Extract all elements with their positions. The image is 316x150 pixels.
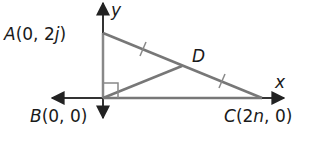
y-axis-label: y bbox=[110, 0, 122, 20]
point-c-name: C bbox=[224, 106, 236, 126]
point-b-label: B(0, 0) bbox=[30, 106, 87, 126]
point-b-name: B bbox=[30, 106, 42, 126]
triangle-diagram: A(0, 2j) B(0, 0) C(2n, 0) D x y bbox=[0, 0, 316, 150]
point-a-label: A(0, 2j) bbox=[3, 24, 66, 44]
x-axis-label: x bbox=[274, 72, 286, 92]
point-a-name: A bbox=[3, 24, 16, 44]
point-c-label: C(2n, 0) bbox=[224, 106, 292, 126]
point-d-label: D bbox=[192, 46, 205, 66]
segment-bd bbox=[103, 66, 182, 98]
